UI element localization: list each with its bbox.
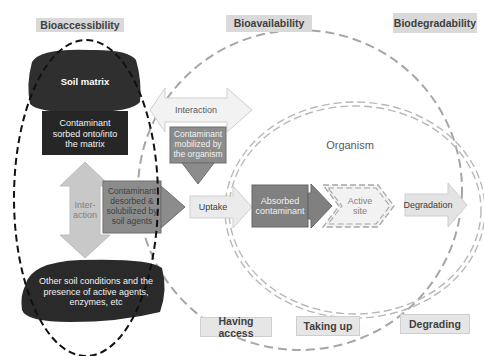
- label-interaction-horizontal: Interaction: [166, 100, 226, 120]
- desorbed-arrow-head: [161, 186, 185, 228]
- header-biodegradability: Biodegradability: [393, 13, 477, 33]
- footer-having-access: Having access: [200, 317, 272, 337]
- label-contaminant-sorbed: Contaminant sorbed onto/into the matrix: [46, 114, 124, 154]
- label-other-soil-conditions: Other soil conditions and the presence o…: [34, 265, 158, 319]
- label-interaction-vertical: Inter- action: [68, 195, 102, 225]
- label-degradation: Degradation: [404, 196, 452, 214]
- label-contaminant-desorbed: Contaminant desorbed & solubilized by so…: [104, 182, 160, 232]
- header-bioaccessibility: Bioaccessibility: [36, 18, 124, 32]
- label-contaminant-mobilized: Contaminant mobilized by the organism: [170, 127, 226, 163]
- label-absorbed-contaminant: Absorbed contaminant: [252, 186, 308, 226]
- label-active-site: Active site: [340, 190, 380, 222]
- diagram-canvas: Bioaccessibility Bioavailability Biodegr…: [0, 0, 484, 356]
- header-bioavailability: Bioavailability: [226, 15, 312, 32]
- mobilized-arrow-head: [182, 163, 214, 184]
- label-soil-matrix: Soil matrix: [40, 74, 130, 90]
- label-uptake: Uptake: [192, 198, 234, 216]
- footer-taking-up: Taking up: [296, 316, 360, 336]
- label-organism: Organism: [310, 136, 390, 154]
- footer-degrading: Degrading: [400, 314, 470, 334]
